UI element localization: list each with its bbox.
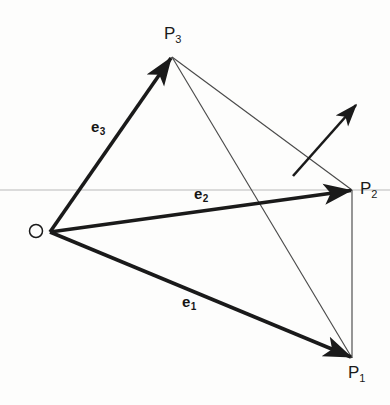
diagram-canvas	[0, 0, 390, 405]
free-direction-arrow	[293, 105, 356, 176]
vector-label-e1-base: e	[182, 293, 190, 310]
point-label-p3: P3	[164, 25, 181, 42]
vector-label-e1: e1	[182, 294, 196, 309]
vector-e3-arrow	[50, 58, 171, 232]
point-label-p3-base: P	[164, 24, 175, 43]
edge-p3-p1	[172, 57, 352, 358]
edge-p3-p2	[172, 57, 352, 190]
vector-label-e3: e3	[91, 119, 105, 134]
point-label-p1-subscript: 1	[359, 372, 365, 384]
vector-label-e3-subscript: 3	[100, 126, 106, 137]
point-label-p2: P2	[360, 180, 377, 197]
point-label-p1: P1	[348, 364, 365, 381]
point-label-p2-base: P	[360, 179, 371, 198]
vector-label-e2-subscript: 2	[203, 193, 209, 204]
vector-label-e3-base: e	[91, 118, 99, 135]
vector-label-e1-subscript: 1	[191, 301, 197, 312]
vector-label-e2-base: e	[194, 185, 202, 202]
point-label-p2-subscript: 2	[371, 188, 377, 200]
vector-e1-arrow	[50, 232, 351, 357]
origin-circle-marker	[30, 225, 43, 238]
vector-diagram-figure: O e3 e2 e1 P3 P2 P1	[0, 0, 390, 405]
point-label-p3-subscript: 3	[175, 33, 181, 45]
vector-label-e2: e2	[194, 186, 208, 201]
point-label-p1-base: P	[348, 363, 359, 382]
